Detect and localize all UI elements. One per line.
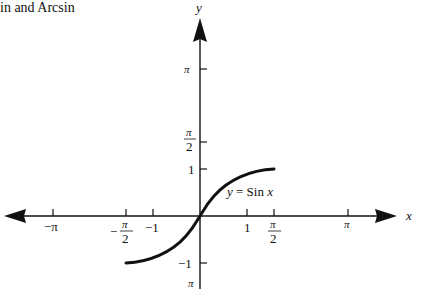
x-tick-one: 1	[244, 220, 251, 235]
x-tick-pi: π	[344, 218, 350, 230]
y-tick-bottom-pi: π	[188, 277, 194, 289]
x-axis-left-arrow-icon	[4, 209, 26, 223]
x-tick-half-pi-num: π	[270, 218, 276, 230]
x-tick-neg-one: −1	[145, 220, 159, 235]
x-axis-right-arrow-icon	[375, 209, 397, 223]
x-tick-neg-half-pi-den: 2	[122, 231, 129, 246]
curve-label: y = Sin x	[225, 184, 273, 199]
x-tick-neg-half-pi-sign: −	[110, 224, 117, 239]
y-tick-half-pi-num: π	[186, 126, 192, 138]
x-tick-neg-pi: −π	[44, 219, 58, 234]
x-tick-neg-half-pi-num: π	[122, 218, 128, 230]
x-tick-half-pi-den: 2	[270, 231, 277, 246]
y-tick-pi: π	[184, 63, 190, 75]
curve-label-x: x	[266, 184, 273, 199]
x-axis-label: x	[405, 208, 412, 223]
y-axis-label: y	[194, 0, 202, 15]
y-ticks	[200, 69, 207, 263]
y-tick-neg-one: −1	[178, 256, 192, 271]
sin-graph: x y −π − π 2 −1 1 π 2 π π π 2 1 −1 π y =…	[0, 0, 423, 289]
curve-label-eq: = Sin	[233, 184, 267, 199]
y-tick-half-pi-den: 2	[186, 139, 193, 154]
y-tick-one: 1	[188, 162, 195, 177]
y-axis-up-arrow-icon	[193, 18, 207, 42]
